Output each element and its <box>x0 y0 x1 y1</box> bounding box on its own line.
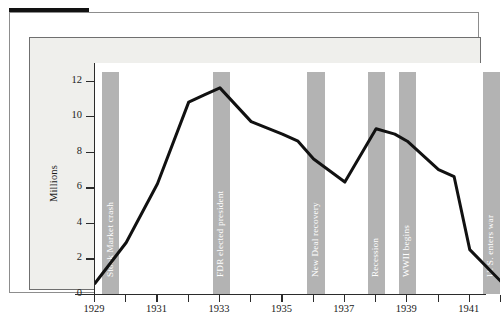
y-tick-mark <box>86 81 94 82</box>
x-tick-mark <box>156 295 157 302</box>
y-tick-label: 12 <box>38 75 82 86</box>
x-tick-label: 1929 <box>71 304 117 315</box>
x-tick-mark <box>250 295 251 302</box>
y-tick-mark <box>86 152 94 153</box>
x-tick-mark <box>219 295 220 302</box>
y-tick-label-text: 10 <box>42 110 82 121</box>
y-tick-label-text: 4 <box>42 217 82 228</box>
x-tick-mark <box>375 295 376 302</box>
x-tick-label: 1935 <box>258 304 304 315</box>
x-tick-mark <box>313 295 314 302</box>
x-tick-mark <box>406 295 407 302</box>
x-tick-label: 1931 <box>133 304 179 315</box>
x-tick-label: 1933 <box>196 304 242 315</box>
y-tick-label-text: 8 <box>42 146 82 157</box>
data-line-series <box>95 63 500 294</box>
y-tick-label: 6 <box>38 181 82 192</box>
y-tick-label: 8 <box>38 146 82 157</box>
x-tick-label: 1941 <box>446 304 492 315</box>
y-tick-label: 2 <box>38 252 82 263</box>
x-tick-label: 1939 <box>383 304 429 315</box>
y-tick-label-text: 6 <box>42 181 82 192</box>
y-tick-label-text: 12 <box>42 75 82 86</box>
figure-outer-frame: Millions 024681012 192919311933193519371… <box>9 12 479 293</box>
y-tick-label-text: 2 <box>42 252 82 263</box>
x-tick-mark <box>188 295 189 302</box>
y-tick-mark <box>86 258 94 259</box>
axis-panel: Millions 024681012 192919311933193519371… <box>29 37 481 290</box>
x-tick-mark <box>281 295 282 302</box>
x-axis-line <box>75 294 486 295</box>
y-tick-label: 10 <box>38 110 82 121</box>
y-tick-mark <box>86 187 94 188</box>
data-line-path <box>95 88 500 283</box>
plot-area: Stock Market crashFDR elected presidentN… <box>94 63 500 294</box>
x-tick-mark <box>344 295 345 302</box>
x-tick-mark <box>125 295 126 302</box>
x-tick-label: 1937 <box>321 304 367 315</box>
x-tick-mark <box>469 295 470 302</box>
y-tick-label: 4 <box>38 217 82 228</box>
y-tick-mark <box>86 223 94 224</box>
x-tick-mark <box>94 295 95 302</box>
y-tick-mark <box>86 116 94 117</box>
x-tick-mark <box>438 295 439 302</box>
